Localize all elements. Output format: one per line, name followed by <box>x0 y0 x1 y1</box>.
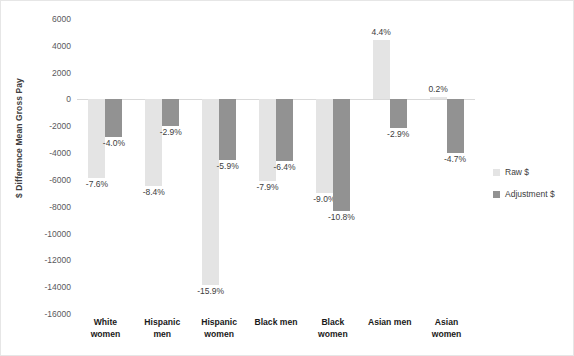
bar-group: -7.6%-4.0% <box>77 19 134 314</box>
x-axis-label-line: Black <box>302 317 364 329</box>
legend-item[interactable]: Raw $ <box>493 167 573 177</box>
y-axis-tick: 2000 <box>25 68 71 78</box>
y-axis-tick: 6000 <box>25 14 71 24</box>
bar-raw[interactable] <box>202 99 219 285</box>
y-axis-tick-labels: 6000400020000-2000-4000-6000-8000-10000-… <box>25 1 71 356</box>
bar-data-label: -7.9% <box>241 182 295 192</box>
bar-group: -8.4%-2.9% <box>134 19 191 314</box>
x-axis-label: Blackwomen <box>302 317 364 340</box>
bar-adjustment[interactable] <box>105 99 122 137</box>
legend-label: Adjustment $ <box>505 189 555 199</box>
x-axis-label-line: Hispanic <box>131 317 193 329</box>
bar-data-label: -6.4% <box>257 162 311 172</box>
x-axis-label-line: men <box>131 329 193 341</box>
x-axis-label-line: White <box>74 317 136 329</box>
bar-group: 4.4%-2.9% <box>361 19 418 314</box>
bar-data-label: 0.2% <box>411 84 465 94</box>
y-axis-tick: -10000 <box>25 229 71 239</box>
legend-swatch-icon <box>493 191 500 198</box>
x-axis-label: Hispanicwomen <box>188 317 250 340</box>
bar-group: -15.9%-5.9% <box>191 19 248 314</box>
y-axis-title: $ Difference Mean Gross Pay <box>14 48 24 228</box>
y-axis-tick: -16000 <box>25 309 71 319</box>
bar-data-label: -5.9% <box>201 161 255 171</box>
y-axis-tick: -12000 <box>25 255 71 265</box>
bar-adjustment[interactable] <box>276 99 293 160</box>
x-axis-category-labels: WhitewomenHispanicmenHispanicwomenBlack … <box>77 317 475 351</box>
x-axis-label-line: women <box>302 329 364 341</box>
legend-label: Raw $ <box>505 167 529 177</box>
y-axis-tick: 0 <box>25 94 71 104</box>
bar-data-label: -2.9% <box>144 127 198 137</box>
y-axis-tick: -2000 <box>25 121 71 131</box>
bar-group: 0.2%-4.7% <box>418 19 475 314</box>
chart-figure: $ Difference Mean Gross Pay 600040002000… <box>0 0 574 356</box>
x-axis-label: Hispanicmen <box>131 317 193 340</box>
plot-area: -7.6%-4.0%-8.4%-2.9%-15.9%-5.9%-7.9%-6.4… <box>77 19 475 314</box>
bar-adjustment[interactable] <box>390 99 407 128</box>
bar-data-label: -4.0% <box>87 138 141 148</box>
x-axis-label-line: Asian <box>416 317 478 329</box>
bar-data-label: 4.4% <box>354 27 408 37</box>
x-axis-label: Black men <box>245 317 307 329</box>
bar-data-label: -7.6% <box>70 179 124 189</box>
y-axis-tick: -6000 <box>25 175 71 185</box>
bar-group: -9.0%-10.8% <box>304 19 361 314</box>
y-axis-tick: 4000 <box>25 41 71 51</box>
bar-data-label: -15.9% <box>184 286 238 296</box>
bar-raw[interactable] <box>316 99 333 192</box>
bar-raw[interactable] <box>145 99 162 186</box>
bar-data-label: -8.4% <box>127 187 181 197</box>
x-axis-label: Asianwomen <box>416 317 478 340</box>
legend-swatch-icon <box>493 169 500 176</box>
x-axis-label-line: Hispanic <box>188 317 250 329</box>
bar-data-label: -10.8% <box>314 212 368 222</box>
y-axis-tick: -4000 <box>25 148 71 158</box>
bar-raw[interactable] <box>373 40 390 99</box>
chart-legend: Raw $Adjustment $ <box>493 167 573 211</box>
bar-adjustment[interactable] <box>447 99 464 153</box>
bar-adjustment[interactable] <box>219 99 236 159</box>
x-axis-label-line: women <box>416 329 478 341</box>
y-axis-tick: -14000 <box>25 282 71 292</box>
x-axis-label: Asian men <box>359 317 421 329</box>
bar-raw[interactable] <box>430 97 447 100</box>
x-axis-label-line: Black men <box>245 317 307 329</box>
bar-adjustment[interactable] <box>333 99 350 211</box>
x-axis-label: Whitewomen <box>74 317 136 340</box>
bar-adjustment[interactable] <box>162 99 179 126</box>
x-axis-label-line: Asian men <box>359 317 421 329</box>
x-axis-label-line: women <box>74 329 136 341</box>
y-axis-tick: -8000 <box>25 202 71 212</box>
bar-data-label: -4.7% <box>428 154 482 164</box>
x-axis-label-line: women <box>188 329 250 341</box>
bar-data-label: -2.9% <box>371 129 425 139</box>
legend-item[interactable]: Adjustment $ <box>493 189 573 199</box>
bar-group: -7.9%-6.4% <box>248 19 305 314</box>
